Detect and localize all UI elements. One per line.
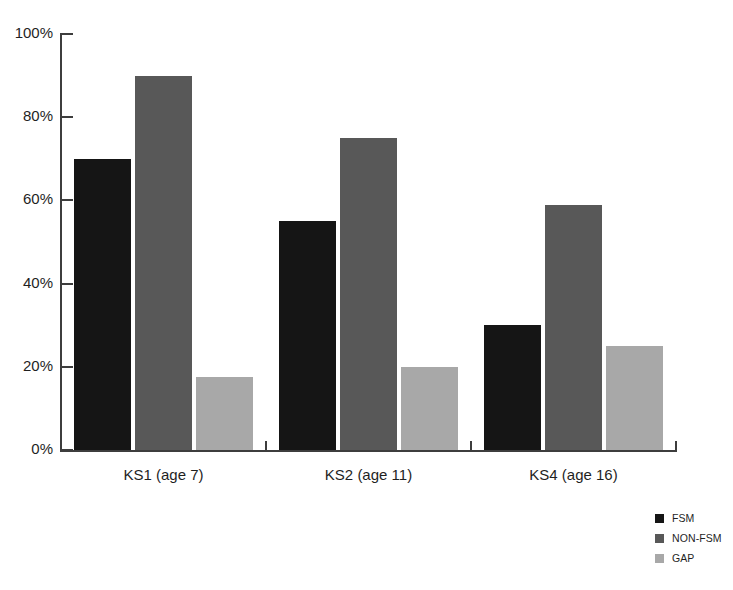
y-axis-tick-label: 60% bbox=[0, 190, 53, 207]
y-axis-tick-label: 40% bbox=[0, 274, 53, 291]
bar-non-fsm-2 bbox=[340, 138, 397, 450]
x-axis-category-label: KS1 (age 7) bbox=[61, 466, 266, 483]
bars-container bbox=[61, 34, 676, 450]
x-axis-category-label: KS2 (age 11) bbox=[266, 466, 471, 483]
y-axis-tick-label: 0% bbox=[0, 440, 53, 457]
legend-swatch-icon bbox=[655, 534, 664, 543]
y-axis-tick-label: 80% bbox=[0, 107, 53, 124]
bar-gap-1 bbox=[196, 377, 253, 450]
legend-swatch-icon bbox=[655, 554, 664, 563]
bar-non-fsm-1 bbox=[135, 76, 192, 450]
legend-label: NON-FSM bbox=[672, 532, 722, 544]
bar-gap-3 bbox=[606, 346, 663, 450]
legend-item: FSM bbox=[655, 509, 733, 527]
legend-label: GAP bbox=[672, 552, 694, 564]
y-axis-tick-label: 100% bbox=[0, 24, 53, 41]
bar-fsm-3 bbox=[484, 325, 541, 450]
chart-legend: FSMNON-FSMGAP bbox=[655, 509, 733, 569]
legend-item: NON-FSM bbox=[655, 529, 733, 547]
x-axis-category-label: KS4 (age 16) bbox=[471, 466, 676, 483]
y-axis-tick-label: 20% bbox=[0, 357, 53, 374]
bar-gap-2 bbox=[401, 367, 458, 450]
legend-swatch-icon bbox=[655, 514, 664, 523]
legend-label: FSM bbox=[672, 512, 694, 524]
bar-non-fsm-3 bbox=[545, 205, 602, 450]
legend-item: GAP bbox=[655, 549, 733, 567]
x-axis-line bbox=[60, 450, 677, 452]
bar-chart: 0%20%40%60%80%100% KS1 (age 7)KS2 (age 1… bbox=[0, 0, 733, 590]
bar-fsm-2 bbox=[279, 221, 336, 450]
bar-fsm-1 bbox=[74, 159, 131, 450]
